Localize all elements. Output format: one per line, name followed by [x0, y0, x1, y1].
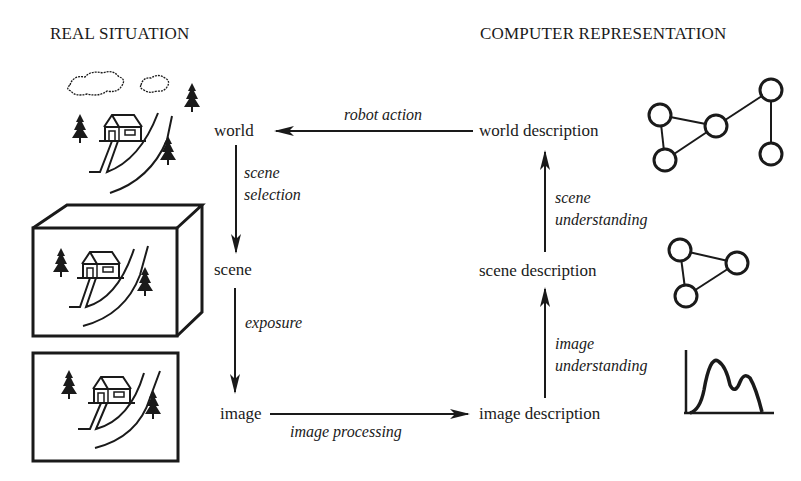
- edge-label-scene-selection: scene selection: [244, 162, 301, 206]
- edge-label-image-understanding-line1: image: [555, 333, 647, 355]
- edge-label-robot-action: robot action: [344, 104, 422, 126]
- edge-label-scene-understanding-line1: scene: [555, 187, 647, 209]
- scene-graph-icon: [669, 239, 748, 307]
- world-landscape-icon: [68, 72, 200, 193]
- edge-label-scene-understanding-line2: understanding: [555, 209, 647, 231]
- world-graph-icon: [649, 79, 782, 171]
- node-scene: scene: [214, 260, 252, 280]
- edge-label-image-understanding: image understanding: [555, 333, 647, 377]
- image-histogram-icon: [684, 350, 774, 413]
- scene-box-icon: [33, 205, 202, 336]
- node-scene-description: scene description: [479, 261, 597, 281]
- node-image: image: [220, 404, 262, 424]
- diagram-canvas: [0, 0, 801, 481]
- edge-label-scene-selection-line1: scene: [244, 162, 301, 184]
- edge-label-scene-selection-line2: selection: [244, 184, 301, 206]
- edge-label-image-understanding-line2: understanding: [555, 355, 647, 377]
- edge-label-scene-understanding: scene understanding: [555, 187, 647, 231]
- node-world: world: [214, 121, 254, 141]
- edge-label-exposure: exposure: [245, 312, 302, 334]
- image-frame-icon: [33, 353, 178, 461]
- node-world-description: world description: [479, 121, 598, 141]
- edge-label-image-processing: image processing: [290, 421, 402, 443]
- node-image-description: image description: [479, 404, 600, 424]
